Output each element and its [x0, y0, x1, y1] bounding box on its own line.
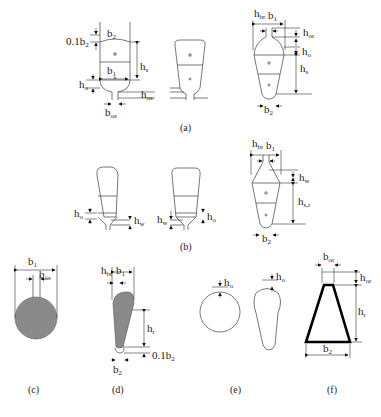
label-b-ho-mid: ho — [207, 210, 217, 224]
slot-shapes-diagram: 0.1b2 b2 b1 hs ho hos bos (a) — [0, 0, 381, 417]
label-c-b1: b1 — [28, 255, 38, 269]
caption-c: (c) — [28, 384, 39, 396]
panel-f-trapezoid-bar: bor hor hr b2 — [306, 250, 372, 358]
panel-a-middle-slot — [170, 40, 208, 100]
label-b-hbr: hbr — [252, 137, 264, 151]
label-hor: hor — [303, 26, 315, 40]
label-a-hs: hs — [140, 60, 149, 74]
clipped-caption-line — [6, 409, 236, 417]
label-f-hor: hor — [360, 271, 372, 285]
label-d-hr: hr — [147, 322, 156, 336]
label-b1: b1 — [268, 9, 278, 23]
panel-b-right-slot: hbr b1 hw hs,r b2 — [251, 137, 311, 246]
label-b-hw-left: hw — [134, 214, 146, 228]
label-d-b2: b2 — [113, 363, 123, 377]
label-a-b1: b1 — [107, 64, 117, 78]
label-b-hsr: hs,r — [298, 195, 311, 209]
label-d-b1: b1 — [116, 264, 126, 278]
caption-e: (e) — [230, 384, 241, 396]
label-b-hw: hw — [299, 171, 311, 185]
panel-d-teardrop-bar: hbr b1 hr 0.1b2 b2 — [101, 264, 175, 377]
label-hs: hs — [300, 62, 309, 76]
label-b-b1: b1 — [266, 139, 276, 153]
label-a-hos: hos — [141, 88, 153, 102]
panel-a-left-slot: 0.1b2 b2 b1 hs ho hos bos — [66, 22, 155, 120]
caption-b: (b) — [180, 241, 192, 253]
label-b-b2: b2 — [262, 232, 272, 246]
label-ho: ho — [302, 45, 312, 59]
label-f-b2: b2 — [323, 342, 333, 356]
label-d-hbr: hbr — [101, 264, 113, 278]
panel-e-shapes: ho ho — [200, 270, 286, 350]
panel-b-middle-slot: hw ho — [157, 168, 217, 230]
label-b-hw-mid: hw — [157, 213, 169, 227]
label-a-b2: b2 — [107, 27, 117, 41]
label-f-bor: bor — [323, 250, 335, 264]
label-f-hr: hr — [358, 305, 367, 319]
panel-c-round-bar: b1 bos — [15, 255, 57, 339]
caption-f: (f) — [327, 384, 337, 396]
label-e-ho-circle: ho — [224, 276, 234, 290]
label-e-ho-teardrop: ho — [276, 270, 286, 284]
label-b2: b2 — [264, 103, 274, 117]
panel-a-right-slot: hbr b1 hor ho hs b2 — [253, 7, 315, 117]
label-a-0.1b2: 0.1b2 — [66, 35, 89, 49]
label-d-0.1b2: 0.1b2 — [152, 349, 175, 363]
panel-b-left-slot: ho hw — [74, 167, 146, 230]
label-hbr: hbr — [254, 7, 266, 21]
label-b-ho-left: ho — [74, 207, 84, 221]
label-a-bos: bos — [105, 106, 117, 120]
caption-d: (d) — [112, 384, 124, 396]
caption-a: (a) — [180, 122, 191, 134]
